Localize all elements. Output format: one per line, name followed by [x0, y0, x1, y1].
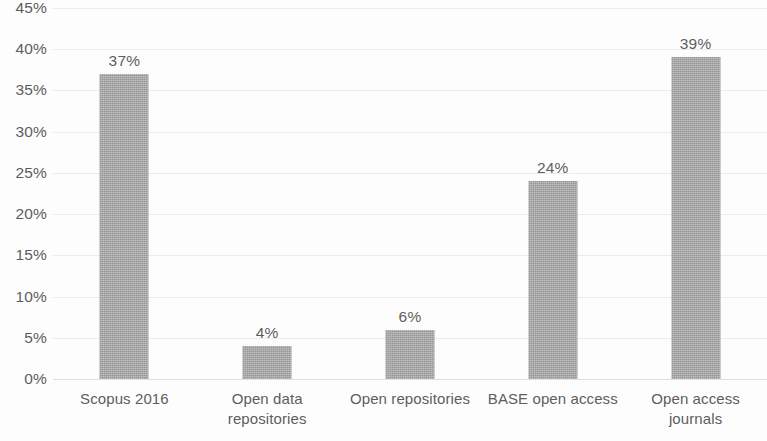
bar[interactable]	[385, 330, 434, 379]
gridline	[53, 379, 767, 380]
bar-group: 39%	[624, 8, 767, 379]
bar-value-label: 6%	[399, 308, 422, 326]
x-axis-tick-label: Open accessjournals	[624, 383, 767, 441]
bar[interactable]	[528, 181, 577, 379]
y-axis-tick-label: 0%	[0, 370, 47, 388]
bar-value-label: 24%	[537, 159, 569, 177]
x-axis-tick-label-line: Open data	[232, 390, 303, 407]
bar-value-label: 37%	[109, 52, 141, 70]
plot-area: 37%4%6%24%39%	[53, 8, 767, 379]
bar-group: 4%	[196, 8, 339, 379]
y-axis-tick-label: 25%	[0, 164, 47, 182]
x-axis-tick-label-line: repositories	[196, 409, 339, 429]
x-axis-tick-label: Scopus 2016	[53, 383, 196, 441]
x-axis-tick-label-line: Open repositories	[350, 390, 470, 407]
x-axis-tick-label-line: Open access	[651, 390, 740, 407]
x-axis-tick-label: Open repositories	[339, 383, 482, 441]
x-axis-tick-label: BASE open access	[481, 383, 624, 441]
y-axis-tick-label: 10%	[0, 288, 47, 306]
bar-group: 6%	[339, 8, 482, 379]
bar-group: 24%	[481, 8, 624, 379]
x-axis-tick-label-line: Scopus 2016	[80, 390, 169, 407]
bar[interactable]	[100, 74, 149, 379]
y-axis: 45%40%35%30%25%20%15%10%5%0%	[0, 0, 47, 441]
bar[interactable]	[243, 346, 292, 379]
bar-chart: 45%40%35%30%25%20%15%10%5%0% 37%4%6%24%3…	[0, 0, 767, 441]
x-axis-tick-label-line: journals	[624, 409, 767, 429]
x-axis-tick-label: Open datarepositories	[196, 383, 339, 441]
bar-value-label: 4%	[256, 324, 279, 342]
x-axis: Scopus 2016Open datarepositoriesOpen rep…	[53, 383, 767, 441]
y-axis-tick-label: 35%	[0, 81, 47, 99]
bar-value-label: 39%	[680, 35, 712, 53]
y-axis-tick-label: 45%	[0, 0, 47, 17]
bar[interactable]	[671, 57, 720, 379]
bars-layer: 37%4%6%24%39%	[53, 8, 767, 379]
y-axis-tick-label: 5%	[0, 329, 47, 347]
x-axis-tick-label-line: BASE open access	[488, 390, 618, 407]
y-axis-tick-label: 30%	[0, 123, 47, 141]
bar-group: 37%	[53, 8, 196, 379]
y-axis-tick-label: 20%	[0, 205, 47, 223]
y-axis-tick-label: 40%	[0, 40, 47, 58]
y-axis-tick-label: 15%	[0, 246, 47, 264]
